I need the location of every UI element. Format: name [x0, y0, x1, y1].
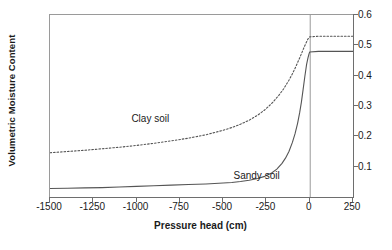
x-tick-label: -1000	[123, 201, 149, 212]
y-tick-label: 0.3	[358, 100, 372, 111]
series-line-sandy-soil	[50, 51, 353, 188]
y-tick-label: 0.1	[358, 160, 372, 171]
series-annotation-clay-soil: Clay soil	[131, 113, 169, 124]
series-line-clay-soil	[50, 36, 353, 152]
x-axis-title-label: Pressure head (cm)	[154, 220, 247, 231]
series-annotation-sandy-soil: Sandy soil	[234, 170, 280, 181]
plot-area: Clay soil Sandy soil	[49, 14, 354, 198]
y-axis-title: Volumetric Moisture Content	[0, 0, 24, 200]
x-axis-title: Pressure head (cm)	[49, 220, 352, 231]
y-tick-label: 0.6	[358, 9, 372, 20]
y-tick-label: 0.5	[358, 39, 372, 50]
x-tick-label: -1500	[36, 201, 62, 212]
y-axis-title-label: Volumetric Moisture Content	[7, 34, 18, 166]
x-tick-label: -500	[212, 201, 232, 212]
x-tick-label: -750	[169, 201, 189, 212]
soil-moisture-retention-chart: Volumetric Moisture Content Clay soil Sa…	[0, 0, 392, 250]
y-tick-label: 0.2	[358, 130, 372, 141]
x-tick-label: 0	[306, 201, 312, 212]
plot-canvas	[50, 15, 353, 197]
y-tick-label: 0.4	[358, 69, 372, 80]
x-tick-label: -1250	[80, 201, 106, 212]
x-tick-label: -250	[255, 201, 275, 212]
x-tick-label: 250	[344, 201, 361, 212]
